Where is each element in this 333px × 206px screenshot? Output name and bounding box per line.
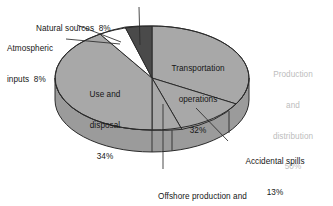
pie-chart: Natural sources 8% Atmospheric inputs 8%…	[0, 0, 333, 206]
label-accidental-spills-line1: Accidental spills	[229, 157, 321, 167]
label-transportation-line3: 32%	[155, 126, 241, 136]
label-use-disposal-line2: disposal	[69, 121, 141, 131]
label-transportation-line2: operations	[155, 95, 241, 105]
label-use-disposal-line1: Use and	[69, 90, 141, 100]
label-offshore-line1: Offshore production and	[158, 192, 308, 202]
label-use-disposal-line3: 34%	[69, 152, 141, 162]
label-atmospheric-inputs-line1: Atmospheric	[7, 44, 85, 54]
annotation-production-line1: Production	[258, 70, 328, 80]
label-offshore-production: Offshore production and coastal refining…	[158, 172, 308, 206]
label-use-and-disposal: Use and disposal 34%	[69, 70, 141, 182]
annotation-production-line2: and	[258, 101, 328, 111]
label-transportation-line1: Transportation	[155, 64, 241, 74]
